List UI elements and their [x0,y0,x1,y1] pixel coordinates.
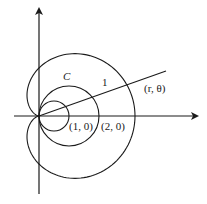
point-2-label: (2, 0) [101,120,125,133]
polar-point-label: (r, θ) [144,82,166,95]
point-1-label: (1, 0) [69,120,93,133]
curve-label: C [63,70,71,82]
polar-diagram: C 1 (r, θ) (1, 0) (2, 0) [0,0,207,204]
segment-label: 1 [102,76,108,88]
